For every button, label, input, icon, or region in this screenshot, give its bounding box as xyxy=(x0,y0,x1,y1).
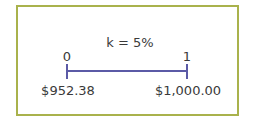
timeline-svg xyxy=(0,0,254,121)
value-label-1: $1,000.00 xyxy=(155,84,221,98)
value-label-0: $952.38 xyxy=(41,84,95,98)
